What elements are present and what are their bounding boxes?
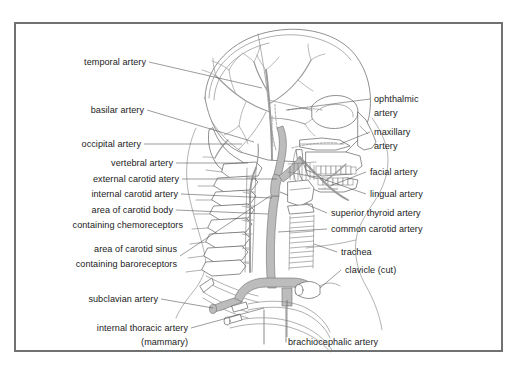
- anatomy-figure-root: mandibular canal: [0, 0, 522, 372]
- label-ophthalmic-artery-line1: ophthalmic: [374, 94, 419, 104]
- trachea-rings: [289, 215, 314, 270]
- label-internal-carotid-artery: internal carotid artery: [91, 189, 178, 199]
- label-carotid-sinus-line2: containing baroreceptors: [76, 259, 178, 269]
- label-maxillary-artery-line1: maxillary: [374, 127, 411, 137]
- label-internal-thoracic-line1: internal thoracic artery: [97, 323, 189, 333]
- label-external-carotid-artery: external carotid atery: [93, 174, 179, 184]
- label-clavicle-cut: clavicle (cut): [345, 265, 396, 275]
- leader-common-carotid: [278, 229, 327, 232]
- label-maxillary-artery-line2: artery: [374, 141, 398, 151]
- label-common-carotid-artery: common carotid artery: [331, 224, 423, 234]
- label-carotid-sinus-line1: area of carotid sinus: [94, 244, 177, 254]
- label-subclavian-artery: subclavian artery: [88, 294, 158, 304]
- label-carotid-body-line2: containing chemoreceptors: [73, 220, 184, 230]
- label-basilar-artery: basilar artery: [91, 105, 145, 115]
- leader-subclavian-artery: [161, 299, 213, 308]
- label-internal-thoracic-line2: (mammary): [141, 337, 188, 347]
- label-ophthalmic-artery-line2: artery: [374, 108, 398, 118]
- label-carotid-body-line1: area of carotid body: [92, 205, 174, 215]
- label-occipital-artery: occipital artery: [82, 139, 142, 149]
- anatomy-diagram-svg: mandibular canal: [0, 0, 522, 372]
- label-lingual-artery: lingual artery: [370, 189, 423, 199]
- mandibular-canal-note: mandibular canal: [318, 187, 338, 191]
- leader-clavicle-cut: [320, 270, 341, 288]
- label-trachea: trachea: [341, 247, 373, 257]
- label-facial-artery: facial artery: [370, 167, 418, 177]
- label-vertebral-artery: vertebral artery: [111, 158, 173, 168]
- clavicle-cut-end: [295, 285, 303, 296]
- label-superior-thyroid-artery: superior thyroid artery: [331, 208, 421, 218]
- label-brachiocephalic-artery: brachiocephalic artery: [288, 337, 378, 347]
- subclavian-artery-cut-end: [210, 305, 217, 314]
- label-temporal-artery: temporal artery: [84, 57, 146, 67]
